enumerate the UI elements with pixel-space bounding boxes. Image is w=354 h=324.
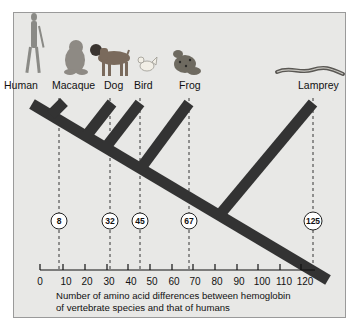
tree-branches — [32, 102, 328, 280]
marker-frog: 67 — [181, 213, 197, 229]
svg-text:100: 100 — [254, 276, 271, 287]
svg-text:0: 0 — [37, 276, 43, 287]
macaque-illustration — [64, 40, 88, 75]
label-human: Human — [4, 79, 38, 91]
label-frog: Frog — [179, 79, 201, 91]
svg-text:90: 90 — [233, 276, 245, 287]
lamprey-branch — [222, 103, 313, 212]
label-bird: Bird — [134, 79, 153, 91]
svg-text:67: 67 — [184, 216, 194, 226]
lamprey-illustration — [277, 68, 343, 74]
label-macaque: Macaque — [52, 79, 95, 91]
axis-caption-line2: of vertebrate species and that of humans — [56, 302, 230, 313]
x-axis — [40, 264, 315, 270]
svg-text:70: 70 — [189, 276, 201, 287]
svg-text:20: 20 — [81, 276, 93, 287]
frog-branch — [141, 103, 189, 168]
svg-text:32: 32 — [105, 216, 115, 226]
marker-dog: 32 — [102, 213, 118, 229]
svg-text:40: 40 — [125, 276, 137, 287]
marker-macaque: 8 — [51, 213, 67, 229]
svg-text:60: 60 — [168, 276, 180, 287]
svg-text:30: 30 — [103, 276, 115, 287]
x-axis-tick-labels: 0 10 20 30 40 50 60 70 80 90 100 110 120 — [37, 276, 314, 287]
svg-text:10: 10 — [60, 276, 72, 287]
marker-lamprey: 125 — [304, 212, 322, 230]
marker-bird: 45 — [132, 213, 148, 229]
phylogenetic-tree: Human Macaque Dog Bird Frog Lamprey 8 32… — [0, 0, 354, 324]
svg-text:50: 50 — [146, 276, 158, 287]
frog-illustration — [173, 50, 201, 75]
bird-illustration — [138, 57, 157, 71]
svg-text:8: 8 — [57, 216, 62, 226]
label-lamprey: Lamprey — [298, 79, 340, 91]
label-dog: Dog — [104, 79, 123, 91]
macaque-branch — [51, 102, 64, 115]
svg-text:110: 110 — [276, 276, 292, 287]
svg-text:80: 80 — [211, 276, 223, 287]
svg-text:120: 120 — [297, 276, 314, 287]
dog-branch — [87, 103, 112, 135]
svg-text:125: 125 — [306, 216, 320, 226]
human-illustration — [25, 13, 44, 73]
svg-text:45: 45 — [135, 216, 145, 226]
dog-illustration — [90, 44, 130, 76]
axis-caption-line1: Number of amino acid differences between… — [56, 290, 290, 301]
